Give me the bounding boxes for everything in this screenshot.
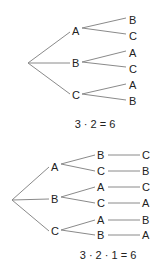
equation: 3 · 2 = 6 xyxy=(75,118,116,130)
tree-diagrams: A B C B C A C A B 3 · 2 = 6 A B C B C A … xyxy=(0,0,160,270)
node-l3-1-0: C xyxy=(142,181,150,193)
node-l2-2-1: B xyxy=(129,95,136,107)
node-l2-0-1: C xyxy=(97,165,105,177)
node-l2-0-0: B xyxy=(97,149,104,161)
node-l3-2-1: A xyxy=(142,229,150,241)
node-l1-2: C xyxy=(72,89,80,101)
node-l2-2-1: B xyxy=(97,229,104,241)
node-l1-1: B xyxy=(51,193,58,205)
node-l2-2-0: A xyxy=(129,79,137,91)
node-l3-2-0: B xyxy=(142,214,149,226)
node-l1-0: A xyxy=(72,25,80,37)
node-l1-2: C xyxy=(51,225,59,237)
node-l2-1-0: A xyxy=(97,181,105,193)
node-l2-1-0: A xyxy=(129,47,137,59)
node-l2-2-0: A xyxy=(97,214,105,226)
node-l2-1-1: C xyxy=(97,197,105,209)
node-l3-1-1: A xyxy=(142,197,150,209)
tree-three-levels: A B C B C A C A B C B C A B A 3 · 2 · 1 … xyxy=(12,149,150,261)
node-l3-0-1: B xyxy=(142,165,149,177)
equation: 3 · 2 · 1 = 6 xyxy=(80,249,137,261)
tree-two-levels: A B C B C A C A B 3 · 2 = 6 xyxy=(28,14,137,130)
node-l2-0-0: B xyxy=(129,14,136,26)
node-l1-1: B xyxy=(72,57,79,69)
node-l3-0-0: C xyxy=(142,149,150,161)
node-l2-0-1: C xyxy=(129,30,137,42)
node-l1-0: A xyxy=(51,161,59,173)
node-l2-1-1: C xyxy=(129,63,137,75)
